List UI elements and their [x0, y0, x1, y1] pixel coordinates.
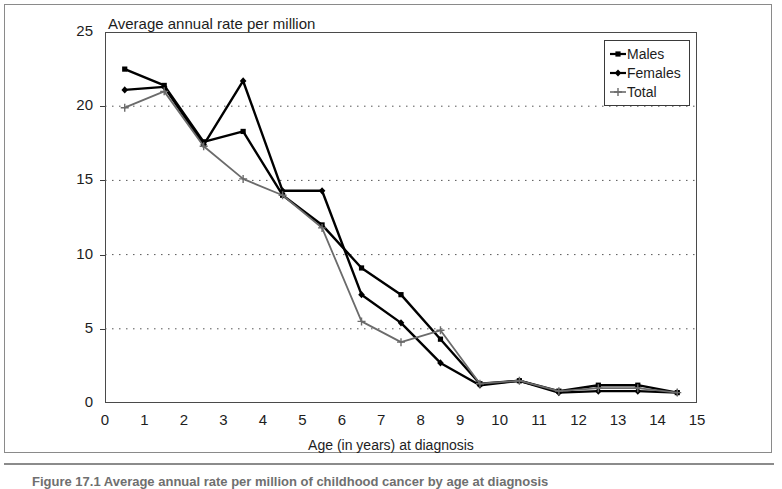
legend-marker-diamond-icon: [609, 66, 627, 80]
chart-title: Average annual rate per million: [108, 15, 315, 32]
data-point-marker: [515, 377, 523, 385]
y-axis-tick-mark: [100, 106, 105, 107]
data-point-marker: [359, 265, 364, 270]
x-axis-tick-label: 12: [564, 411, 594, 428]
x-axis-tick-label: 14: [643, 411, 673, 428]
y-axis-tick-label: 20: [59, 96, 93, 113]
data-point-marker: [615, 69, 622, 76]
legend-item-males: Males: [609, 44, 685, 63]
x-axis-title: Age (in years) at diagnosis: [0, 437, 782, 453]
x-axis-tick-label: 3: [208, 411, 238, 428]
legend-label: Males: [627, 47, 664, 61]
x-axis-tick-label: 1: [129, 411, 159, 428]
data-point-marker: [241, 129, 246, 134]
y-axis-tick-mark: [100, 329, 105, 330]
y-axis-tick-mark: [100, 180, 105, 181]
x-axis-tick-label: 0: [90, 411, 120, 428]
x-axis-tick-label: 10: [485, 411, 515, 428]
series-total: [121, 87, 682, 396]
x-axis-tick-label: 11: [524, 411, 554, 428]
figure-caption: Figure 17.1 Average annual rate per mill…: [32, 474, 732, 489]
x-axis-tick-label: 13: [603, 411, 633, 428]
data-point-marker: [122, 67, 127, 72]
chart-legend: Males Females Total: [604, 40, 690, 106]
caption-divider: [4, 463, 774, 465]
legend-label: Females: [627, 66, 681, 80]
data-point-marker: [397, 338, 405, 346]
data-point-marker: [121, 86, 128, 93]
y-axis-tick-label: 10: [59, 245, 93, 262]
legend-marker-square-icon: [609, 47, 627, 61]
figure-page: Average annual rate per million 05101520…: [0, 0, 782, 489]
x-axis-tick-label: 6: [327, 411, 357, 428]
y-axis-tick-label: 25: [59, 22, 93, 39]
data-point-marker: [121, 104, 129, 112]
y-axis-tick-label: 5: [59, 319, 93, 336]
data-point-marker: [319, 187, 326, 194]
data-point-marker: [358, 317, 366, 325]
y-axis-tick-label: 0: [59, 393, 93, 410]
legend-label: Total: [627, 85, 657, 99]
data-point-marker: [673, 389, 681, 397]
series-females: [121, 77, 680, 396]
data-point-marker: [615, 51, 620, 56]
x-axis-tick-label: 9: [445, 411, 475, 428]
x-axis-tick-label: 2: [169, 411, 199, 428]
x-axis-tick-label: 5: [287, 411, 317, 428]
x-axis-tick-label: 7: [366, 411, 396, 428]
y-axis-tick-mark: [100, 255, 105, 256]
legend-item-total: Total: [609, 82, 685, 101]
data-point-marker: [555, 387, 563, 395]
x-axis-tick-label: 8: [406, 411, 436, 428]
data-point-marker: [398, 292, 403, 297]
legend-item-females: Females: [609, 63, 685, 82]
data-point-marker: [438, 337, 443, 342]
x-axis-tick-label: 15: [682, 411, 712, 428]
x-axis-tick-label: 4: [248, 411, 278, 428]
legend-marker-cross-icon: [609, 85, 627, 99]
y-axis-tick-label: 15: [59, 170, 93, 187]
data-point-marker: [614, 88, 622, 96]
